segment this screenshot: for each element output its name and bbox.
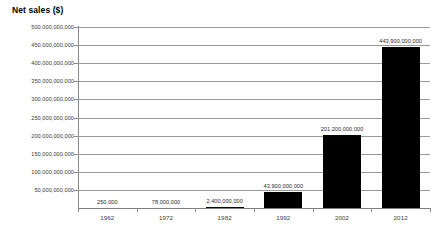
gridline	[78, 136, 430, 137]
gridline	[78, 45, 430, 46]
bar-value-label: 78,000,000	[152, 199, 181, 205]
gridline	[78, 172, 430, 173]
y-axis-tick-label: 350,000,000,000	[31, 78, 74, 84]
gridline	[78, 118, 430, 119]
x-axis-category-label: 2002	[335, 214, 349, 221]
x-axis-tick-mark	[313, 208, 314, 212]
y-axis-tick-label: 100,000,000,000	[31, 169, 74, 175]
x-axis-category-label: 2012	[394, 214, 408, 221]
x-axis-category-label: 1982	[218, 214, 232, 221]
net-sales-bar-chart: Net sales ($) 500,000,000,000450,000,000…	[0, 0, 444, 230]
gridline	[78, 63, 430, 64]
x-axis-tick-mark	[78, 208, 79, 212]
y-axis-tick-label: 300,000,000,000	[31, 96, 74, 102]
x-axis-category-label: 1962	[100, 214, 114, 221]
y-axis-tick-label: 500,000,000,000	[31, 24, 74, 30]
gridline	[78, 190, 430, 191]
gridline	[78, 27, 430, 28]
bar	[264, 192, 302, 208]
plot-area	[78, 27, 430, 208]
bar	[323, 135, 361, 208]
y-axis-tick-label: 400,000,000,000	[31, 60, 74, 66]
gridline	[78, 154, 430, 155]
bar-value-label: 250,000	[97, 199, 118, 205]
gridline	[78, 99, 430, 100]
chart-title: Net sales ($)	[12, 5, 63, 15]
x-axis-tick-mark	[195, 208, 196, 212]
x-axis-tick-mark	[137, 208, 138, 212]
x-axis-tick-mark	[371, 208, 372, 212]
bar	[382, 47, 420, 208]
y-axis-tick-label: 50,000,000,000	[34, 187, 74, 193]
x-axis-tick-mark	[430, 208, 431, 212]
bar-value-label: 2,400,000,000	[206, 198, 242, 204]
y-axis-tick-label: 150,000,000,000	[31, 151, 74, 157]
bar-value-label: 43,900,000,000	[264, 183, 304, 189]
bar	[206, 207, 244, 208]
gridline	[78, 81, 430, 82]
y-axis-tick-label: 450,000,000,000	[31, 42, 74, 48]
x-axis-category-label: 1972	[159, 214, 173, 221]
y-axis-tick-label: 200,000,000,000	[31, 133, 74, 139]
x-axis-category-label: 1992	[276, 214, 290, 221]
bar-value-label: 443,900,000,000	[379, 38, 422, 44]
x-axis-tick-mark	[254, 208, 255, 212]
y-axis-tick-label: 250,000,000,000	[31, 115, 74, 121]
bar-value-label: 201,200,000,000	[321, 126, 364, 132]
